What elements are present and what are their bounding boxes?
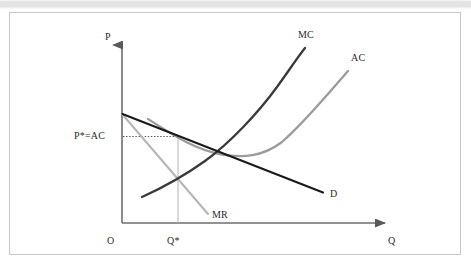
- x-axis-label: Q: [388, 235, 395, 246]
- price-star-label: P*=AC: [74, 130, 105, 141]
- y-axis-label: P: [105, 31, 111, 42]
- demand-curve-label: D: [330, 188, 337, 199]
- scan-top-strip-band: [9, 1, 461, 7]
- scan-top-strip: [0, 0, 471, 9]
- figure-page: P Q O Q* P*=AC MC AC D MR: [0, 0, 471, 270]
- mr-curve-label: MR: [212, 209, 228, 220]
- ac-curve-label: AC: [351, 52, 365, 63]
- mc-curve-label: MC: [298, 29, 314, 40]
- quantity-star-label: Q*: [167, 235, 180, 246]
- origin-label: O: [107, 235, 114, 246]
